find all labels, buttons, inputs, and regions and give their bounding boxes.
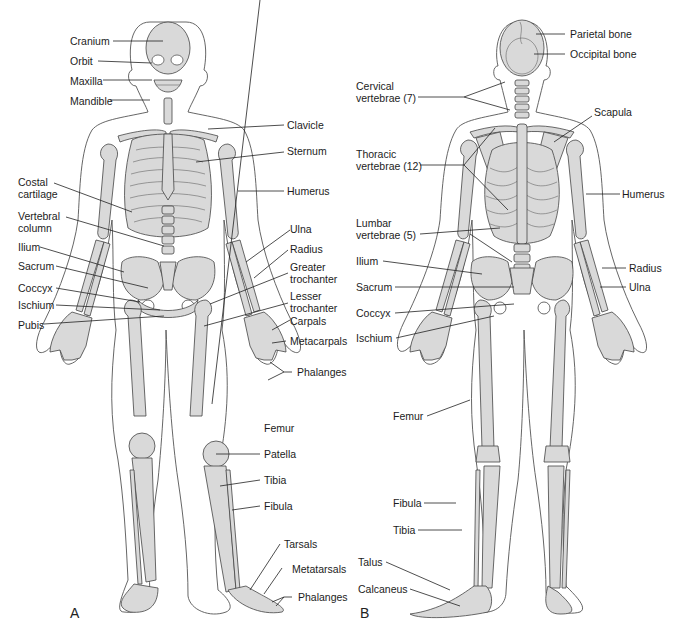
label-ischium-posterior: Ischium <box>356 332 392 344</box>
label-radius-anterior: Radius <box>290 243 323 255</box>
label-calcaneus: Calcaneus <box>358 583 408 595</box>
label-ischium-anterior: Ischium <box>18 299 54 311</box>
label-humerus-posterior: Humerus <box>622 188 665 200</box>
label-coccyx-posterior: Coccyx <box>356 307 390 319</box>
label-mandible: Mandible <box>70 95 113 107</box>
label-humerus-anterior: Humerus <box>287 185 330 197</box>
panel-letter-b: B <box>360 605 369 621</box>
label-fibula-anterior: Fibula <box>264 500 293 512</box>
panel-letter-a: A <box>70 605 79 621</box>
label-scapula: Scapula <box>594 106 632 118</box>
label-lesser-trochanter: Lesser trochanter <box>290 290 340 314</box>
label-radius-posterior: Radius <box>629 262 662 274</box>
label-vertebral-column: Vertebral column <box>18 210 74 234</box>
label-ilium-posterior: Ilium <box>356 255 378 267</box>
label-greater-trochanter: Greater trochanter <box>290 261 340 285</box>
label-maxilla: Maxilla <box>70 75 103 87</box>
label-fibula-posterior: Fibula <box>393 497 422 509</box>
label-phalanges-hand: Phalanges <box>297 366 347 378</box>
label-tarsals: Tarsals <box>284 538 317 550</box>
label-sacrum-anterior: Sacrum <box>18 260 54 272</box>
label-lumbar-vertebrae: Lumbar vertebrae (5) <box>356 217 420 241</box>
label-cranium: Cranium <box>70 35 110 47</box>
label-femur-posterior: Femur <box>393 410 423 422</box>
label-tibia-posterior: Tibia <box>393 524 415 536</box>
label-ilium-anterior: Ilium <box>18 241 40 253</box>
label-occipital-bone: Occipital bone <box>570 48 637 60</box>
label-carpals: Carpals <box>290 315 326 327</box>
label-ulna-anterior: Ulna <box>290 223 312 235</box>
label-pubis: Pubis <box>18 319 44 331</box>
label-ulna-posterior: Ulna <box>629 281 651 293</box>
label-tibia-anterior: Tibia <box>264 474 286 486</box>
label-metacarpals: Metacarpals <box>290 335 347 347</box>
label-thoracic-vertebrae: Thoracic vertebrae (12) <box>356 148 426 172</box>
label-phalanges-foot: Phalanges <box>298 591 348 603</box>
label-patella: Patella <box>264 448 296 460</box>
label-femur-anterior: Femur <box>264 422 294 434</box>
label-sternum: Sternum <box>287 145 327 157</box>
label-sacrum-posterior: Sacrum <box>356 281 392 293</box>
label-cervical-vertebrae: Cervical vertebrae (7) <box>356 80 420 104</box>
label-orbit: Orbit <box>70 55 93 67</box>
label-talus: Talus <box>358 556 383 568</box>
label-parietal-bone: Parietal bone <box>570 28 632 40</box>
label-clavicle: Clavicle <box>287 119 324 131</box>
skeleton-anterior <box>37 0 301 614</box>
label-metatarsals: Metatarsals <box>292 563 346 575</box>
label-costal-cartilage: Costal cartilage <box>18 176 78 200</box>
label-coccyx-anterior: Coccyx <box>18 282 52 294</box>
